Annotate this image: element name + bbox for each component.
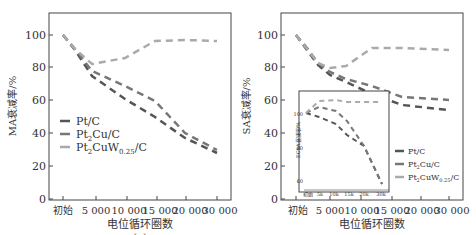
- inset-xtick-2: 10k: [329, 191, 339, 197]
- xtick-c-0: 初始: [53, 204, 73, 216]
- legend-d-pt2cu: Pt2Cu/C: [408, 160, 440, 170]
- series-c-pt2cuw: [63, 35, 217, 64]
- legend-c-pt2cuw: Pt2CuW0.25/C: [76, 141, 147, 156]
- ytick-c-20: 20: [32, 160, 46, 173]
- panel-label-c: (c): [133, 231, 147, 235]
- ytick-d-20: 20: [264, 160, 278, 173]
- legend-d: Pt/C Pt2Cu/C Pt2CuW0.25/C: [395, 147, 459, 183]
- xtick-d-0: 初始: [288, 204, 308, 216]
- xlabel-c: 电位循环圈数: [107, 217, 173, 231]
- inset-xtick-1: 5k: [317, 191, 324, 197]
- ytick-d-80: 80: [264, 61, 278, 74]
- chart-c: 0 20 40 60 80 100 初始 5 000 10 000 15 000…: [6, 13, 238, 235]
- ylabel-c: MA衰减率/%: [6, 76, 18, 136]
- inset-xtick-4: 20k: [359, 191, 369, 197]
- inset-xtick-5: 30k: [376, 191, 386, 197]
- xtick-d-5: 30 000: [435, 205, 470, 216]
- xtick-d-1: 5 000: [316, 205, 345, 216]
- ytick-c-100: 100: [25, 29, 46, 42]
- inset-ytick-100: 100: [293, 111, 303, 117]
- inset-ecsa: 100 80 60 ECSA衰减率/% 初始 5k 10k 15k 20k 30…: [293, 91, 389, 198]
- ylabel-d: SA衰减率/%: [240, 78, 252, 135]
- xtick-c-1: 5 000: [82, 205, 111, 216]
- inset-xtick-3: 15k: [344, 191, 354, 197]
- figure: 0 20 40 60 80 100 初始 5 000 10 000 15 000…: [0, 0, 476, 235]
- xlabel-d: 电位循环圈数: [339, 217, 405, 231]
- legend-d-ptc: Pt/C: [408, 147, 425, 156]
- ytick-d-40: 40: [264, 127, 278, 140]
- series-d-pt2cu: [296, 35, 449, 100]
- ytick-c-40: 40: [32, 127, 46, 140]
- inset-xtick-0: 初始: [303, 191, 313, 198]
- inset-ytick-60: 60: [297, 178, 303, 184]
- ytick-d-0: 0: [271, 193, 278, 206]
- xtick-c-2: 10 000: [112, 205, 147, 216]
- ytick-d-100: 100: [257, 29, 278, 42]
- xtick-c-5: 30 000: [203, 205, 238, 216]
- legend-d-pt2cuw: Pt2CuW0.25/C: [408, 173, 459, 183]
- legend-c-ptc: Pt/C: [76, 115, 100, 128]
- series-d-pt2cuw: [296, 35, 449, 68]
- ytick-c-0: 0: [39, 193, 46, 206]
- chart-d: 0 20 40 60 80 100 初始 5 000 10 000 15 000…: [240, 13, 470, 231]
- ytick-c-80: 80: [32, 61, 46, 74]
- inset-ylabel: ECSA衰减率/%: [295, 122, 302, 158]
- legend-c: Pt/C Pt2Cu/C Pt2CuW0.25/C: [60, 115, 147, 156]
- ytick-c-60: 60: [32, 94, 46, 107]
- ytick-d-60: 60: [264, 94, 278, 107]
